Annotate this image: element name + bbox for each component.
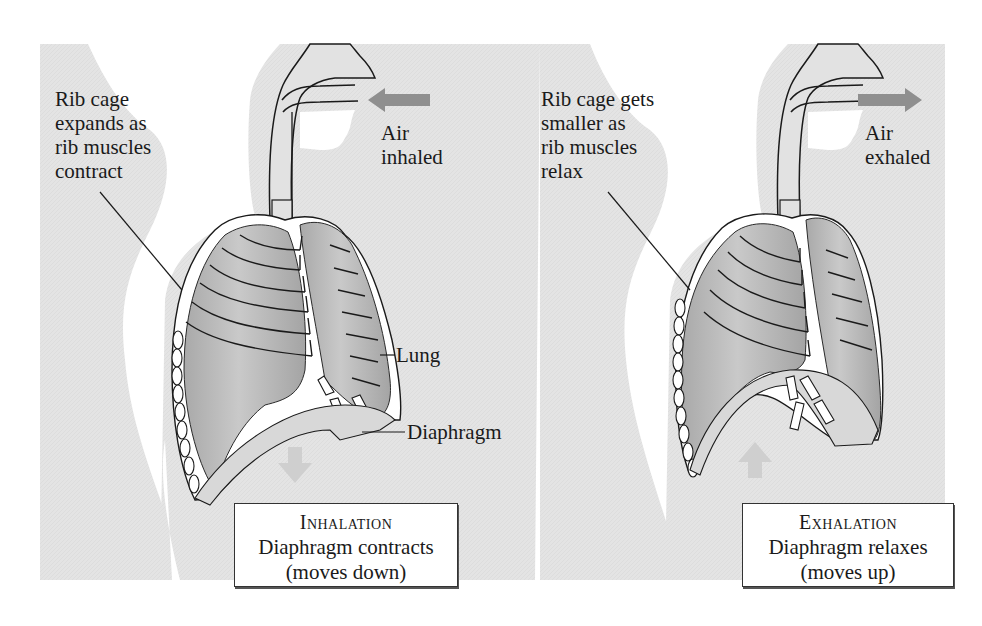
air-inhaled-label: Air inhaled xyxy=(381,121,443,169)
lung-label: Lung xyxy=(396,343,440,367)
inhalation-caption-box: Inhalation Diaphragm contracts (moves do… xyxy=(234,503,458,587)
air-exhaled-label: Air exhaled xyxy=(865,121,930,169)
rib-cage-smaller-label: Rib cage gets smaller as rib muscles rel… xyxy=(541,87,654,183)
rib-cage-expands-label: Rib cage expands as rib muscles contract xyxy=(55,87,151,183)
exhalation-caption-line1: Diaphragm relaxes xyxy=(747,535,949,560)
inhalation-caption-title: Inhalation xyxy=(239,510,453,535)
breathing-diagram: Rib cage expands as rib muscles contract… xyxy=(0,0,982,626)
exhalation-caption-box: Exhalation Diaphragm relaxes (moves up) xyxy=(742,503,954,587)
exhalation-caption-title: Exhalation xyxy=(747,510,949,535)
diaphragm-label: Diaphragm xyxy=(407,420,501,444)
exhalation-caption-line2: (moves up) xyxy=(747,560,949,585)
inhalation-caption-line2: (moves down) xyxy=(239,560,453,585)
inhalation-caption-line1: Diaphragm contracts xyxy=(239,535,453,560)
